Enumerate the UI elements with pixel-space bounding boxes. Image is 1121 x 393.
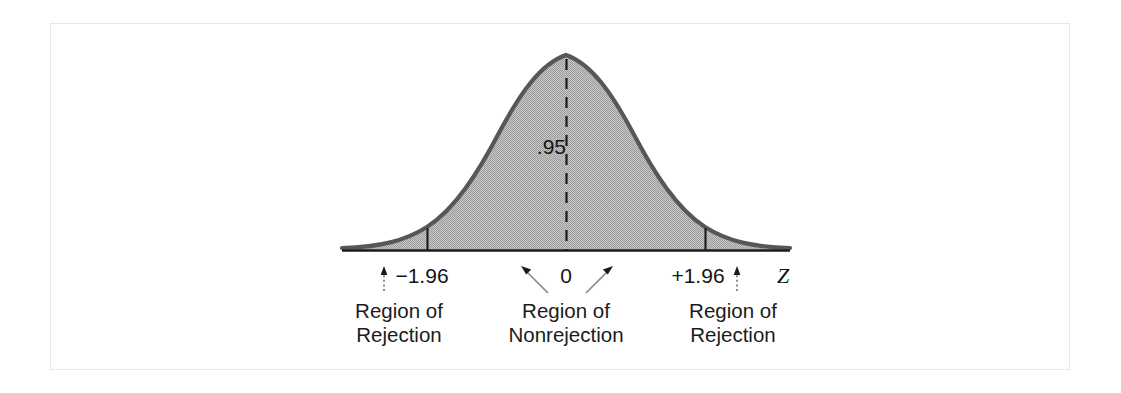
caption-center-nonrejection-line1: Region of: [522, 299, 610, 322]
tick-label-negative-critical: −1.96: [395, 264, 448, 287]
figure-root: .95 −1.96 0 +1.96 Z Region of: [0, 0, 1121, 393]
caption-right-rejection: Region of Rejection: [689, 299, 777, 346]
right-rejection-arrow-icon: [734, 266, 741, 291]
nonrejection-arrow-left-icon: [521, 266, 548, 293]
caption-left-rejection: Region of Rejection: [355, 299, 443, 346]
caption-right-rejection-line2: Rejection: [690, 323, 775, 346]
normal-curve-chart: .95 −1.96 0 +1.96 Z Region of: [0, 0, 1121, 393]
z-axis-label: Z: [777, 263, 790, 288]
tick-label-zero: 0: [560, 264, 572, 287]
tick-label-positive-critical: +1.96: [671, 264, 724, 287]
caption-center-nonrejection: Region of Nonrejection: [508, 299, 623, 346]
center-area-probability-label: .95: [537, 135, 566, 158]
caption-center-nonrejection-line2: Nonrejection: [508, 323, 623, 346]
caption-right-rejection-line1: Region of: [689, 299, 777, 322]
caption-left-rejection-line2: Rejection: [356, 323, 441, 346]
left-rejection-arrow-icon: [381, 266, 388, 291]
caption-left-rejection-line1: Region of: [355, 299, 443, 322]
nonrejection-arrow-right-icon: [586, 266, 613, 293]
